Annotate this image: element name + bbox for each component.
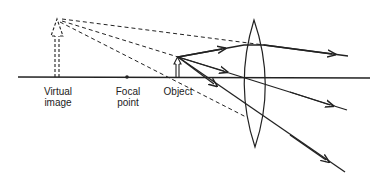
label-object: Object [159, 86, 197, 97]
object-arrow [174, 57, 181, 77]
focal-point-marker [125, 75, 129, 79]
label-virtual-image: Virtual image [36, 86, 80, 108]
virtual-image-arrow [51, 19, 63, 77]
ray-lower [178, 57, 345, 172]
real-rays [178, 45, 348, 172]
label-focal-point: Focal point [108, 86, 148, 108]
optical-axis [18, 77, 370, 78]
extrapolated-rays [60, 19, 264, 118]
